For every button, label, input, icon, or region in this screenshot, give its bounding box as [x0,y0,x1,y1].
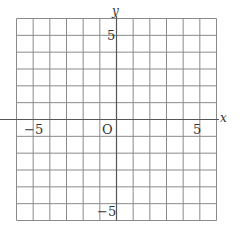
x-tick-label-neg5: −5 [24,122,43,137]
origin-label: O [102,122,113,137]
x-tick-label-pos5: 5 [193,122,201,137]
y-tick-label-pos5: 5 [107,28,115,43]
x-axis-label: x [220,111,227,125]
y-axis-label: y [111,4,119,18]
y-tick-label-neg5: −5 [97,204,116,219]
coordinate-plane: x y O −5 5 5 −5 [0,0,242,235]
